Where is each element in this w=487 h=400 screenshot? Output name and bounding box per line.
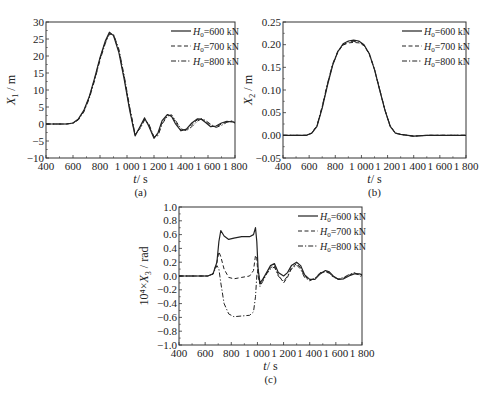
y-axis-ticks: −1.0−0.8−0.6−0.4−0.20.00.20.40.60.81.0 <box>157 201 182 351</box>
x-tick-label: 1 400 <box>169 160 194 172</box>
y-tick-label: 0.2 <box>163 256 177 268</box>
x-tick-label: 800 <box>327 160 344 172</box>
chart-panel-b: −0.050.000.050.100.150.200.254006008001 … <box>241 16 479 200</box>
x-tick-label: 800 <box>223 347 240 359</box>
legend-label: H0=600 kN <box>319 211 366 225</box>
y-tick-label: −0.6 <box>157 311 177 323</box>
y-tick-label: −5 <box>32 135 44 147</box>
y-tick-label: 0.4 <box>163 242 177 254</box>
panel-label: (c) <box>264 373 277 386</box>
x-tick-label: 1 000 <box>349 160 374 172</box>
legend-label: H0=600 kN <box>192 26 239 40</box>
x-tick-label: 1 400 <box>401 160 426 172</box>
panel-label: (b) <box>368 186 381 199</box>
x-tick-label: 1 200 <box>375 160 400 172</box>
y-tick-label: 0.15 <box>262 61 282 73</box>
x-tick-label: 1 600 <box>196 160 221 172</box>
x-tick-label: 1 000 <box>115 160 140 172</box>
y-tick-label: 15 <box>33 67 45 79</box>
x-tick-label: 1 800 <box>350 347 375 359</box>
y-tick-label: 0.20 <box>262 38 282 50</box>
y-axis-label: 10⁴×X3 / rad <box>137 247 153 306</box>
x-axis-label: t/ s <box>367 172 382 186</box>
x-tick-label: 400 <box>171 347 188 359</box>
legend-label: H0=800 kN <box>319 241 366 255</box>
x-axis-label: t/ s <box>263 359 278 373</box>
y-tick-label: 0.05 <box>262 106 282 118</box>
legend-label: H0=700 kN <box>423 41 470 55</box>
x-tick-label: 800 <box>92 160 109 172</box>
legend: H0=600 kNH0=700 kNH0=800 kN <box>171 26 239 70</box>
x-tick-label: 1 000 <box>245 347 270 359</box>
chart-panel-a: −10−50510152025304006008001 0001 2001 40… <box>4 16 248 200</box>
y-tick-label: 0.0 <box>163 270 177 282</box>
y-tick-label: 5 <box>39 101 45 113</box>
y-tick-label: 0.10 <box>262 84 282 96</box>
x-tick-label: 1 200 <box>142 160 167 172</box>
x-tick-label: 400 <box>275 160 292 172</box>
y-tick-label: 25 <box>33 33 45 45</box>
x-tick-label: 1 800 <box>454 160 479 172</box>
legend-label: H0=600 kN <box>423 26 470 40</box>
x-tick-label: 400 <box>38 160 55 172</box>
y-tick-label: 0.6 <box>163 228 177 240</box>
legend-label: H0=800 kN <box>423 56 470 70</box>
x-tick-label: 1 600 <box>323 347 348 359</box>
legend: H0=600 kNH0=700 kNH0=800 kN <box>298 211 366 255</box>
y-tick-label: −0.2 <box>157 283 177 295</box>
y-axis-label: X2 / m <box>241 74 257 106</box>
series-line-dashdot <box>179 265 362 317</box>
y-tick-label: 0.00 <box>262 129 282 141</box>
legend-label: H0=700 kN <box>319 226 366 240</box>
y-tick-label: 10 <box>33 84 45 96</box>
x-tick-label: 1 800 <box>223 160 248 172</box>
x-axis-label: t/ s <box>133 172 148 186</box>
y-tick-label: 0.8 <box>163 214 177 226</box>
x-tick-label: 1 600 <box>427 160 452 172</box>
y-tick-label: 0.25 <box>262 16 282 28</box>
legend-label: H0=700 kN <box>192 41 239 55</box>
y-axis-label: X1 / m <box>4 74 20 106</box>
x-tick-label: 1 200 <box>271 347 296 359</box>
x-tick-label: 1 400 <box>297 347 322 359</box>
legend: H0=600 kNH0=700 kNH0=800 kN <box>402 26 470 70</box>
chart-panel-c: −1.0−0.8−0.6−0.4−0.20.00.20.40.60.81.040… <box>137 201 375 387</box>
y-tick-label: 1.0 <box>163 201 177 213</box>
x-tick-label: 600 <box>65 160 82 172</box>
x-tick-label: 600 <box>301 160 318 172</box>
y-tick-label: 30 <box>33 16 45 28</box>
y-tick-label: −0.4 <box>157 297 177 309</box>
y-tick-label: 20 <box>33 50 45 62</box>
y-tick-label: 0 <box>39 118 45 130</box>
y-tick-label: −0.8 <box>157 325 177 337</box>
series-line-dashed <box>179 252 362 284</box>
series-line-solid <box>283 40 466 136</box>
y-axis-ticks: −0.050.000.050.100.150.200.25 <box>256 16 286 164</box>
legend-label: H0=800 kN <box>192 56 239 70</box>
panel-label: (a) <box>134 186 147 199</box>
figure: −10−50510152025304006008001 0001 2001 40… <box>0 0 487 400</box>
x-tick-label: 600 <box>197 347 214 359</box>
